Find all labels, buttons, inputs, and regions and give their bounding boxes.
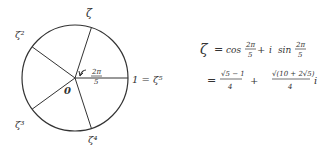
label-one-equals-zeta5: 1 = ζ⁵ — [132, 74, 163, 85]
svg-text:4: 4 — [227, 83, 232, 91]
svg-text:=: = — [207, 74, 216, 87]
label-zeta4: ζ⁴ — [88, 134, 97, 145]
svg-text:i: i — [269, 45, 272, 55]
svg-text:sin: sin — [278, 45, 291, 55]
svg-text:4: 4 — [287, 83, 292, 91]
svg-text:+: + — [250, 75, 258, 86]
formula-line-2: = √5 − 1 4 + √(10 + 2√5) 4 i — [207, 70, 317, 91]
label-zeta3: ζ³ — [15, 119, 24, 130]
svg-text:5: 5 — [248, 51, 253, 59]
svg-text:ζ: ζ — [200, 41, 209, 57]
label-zeta2: ζ² — [15, 29, 24, 40]
svg-text:2π: 2π — [295, 41, 305, 49]
svg-text:2π: 2π — [245, 41, 255, 49]
angle-numerator: 2π — [91, 68, 101, 76]
svg-text:√5 − 1: √5 − 1 — [221, 70, 245, 78]
unit-circle-diagram: ζ ζ² ζ³ ζ⁴ 1 = ζ⁵ 0 2π 5 ζ = cos 2π 5 + … — [0, 0, 332, 155]
svg-text:i: i — [314, 75, 317, 86]
svg-text:cos: cos — [226, 45, 241, 55]
svg-text:+: + — [257, 44, 265, 55]
svg-text:√(10 + 2√5): √(10 + 2√5) — [272, 70, 315, 78]
formula-line-1: ζ = cos 2π 5 + i sin 2π 5 — [200, 41, 306, 59]
angle-denominator: 5 — [94, 78, 99, 86]
label-origin: 0 — [64, 85, 71, 96]
spoke-zeta2 — [32, 47, 75, 78]
svg-text:5: 5 — [298, 51, 303, 59]
svg-text:=: = — [214, 43, 223, 56]
label-zeta: ζ — [86, 7, 93, 20]
spoke-zeta4 — [75, 78, 91, 128]
